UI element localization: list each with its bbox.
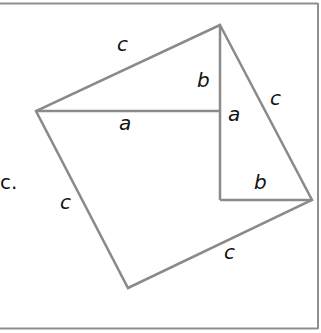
label-c-left: c [60,192,71,212]
label-a-horizontal: a [119,113,131,133]
label-c-top-left: c [117,34,128,54]
label-a-vertical: a [228,104,240,124]
label-c-bottom: c [224,242,235,262]
label-b-inner: b [254,172,267,192]
outer-square-c [36,25,312,288]
label-c-right: c [270,88,281,108]
square-figure [0,0,321,333]
stray-text-c: c. [0,172,17,192]
diagram-frame: c a b a c b c c c. [0,0,321,333]
label-b-vertical: b [197,70,210,90]
